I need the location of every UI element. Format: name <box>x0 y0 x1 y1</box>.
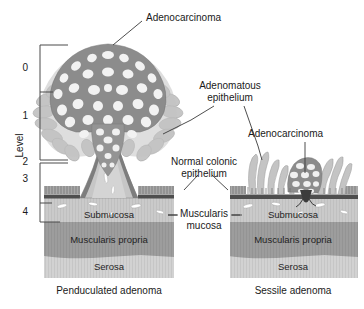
right-submucosa-label: Submucosa <box>248 209 338 220</box>
axis-tick-1: 1 <box>14 110 28 121</box>
axis-tick-2: 2 <box>14 156 28 167</box>
axis-tick-4: 4 <box>14 206 28 217</box>
left-submucosa-label: Submucosa <box>64 209 154 220</box>
right-serosa-label: Serosa <box>248 261 338 272</box>
colon-adenoma-diagram: Level 0 1 2 3 4 Adenocarcinoma Adenomato… <box>0 0 364 309</box>
left-muscularis-propria-label: Muscularis propria <box>54 234 164 245</box>
callout-adenomatous-epithelium: Adenomatous epithelium <box>188 80 272 103</box>
right-muscularis-propria-label: Muscularis propria <box>238 234 348 245</box>
callout-adenocarcinoma-top: Adenocarcinoma <box>146 12 221 24</box>
right-muscularis-mucosa-band <box>228 195 358 200</box>
axis-tick-0: 0 <box>14 62 28 73</box>
callout-normal-colonic-epithelium: Normal colonic epithelium <box>152 156 256 179</box>
callout-muscularis-mucosa: Muscularis mucosa <box>172 208 236 231</box>
caption-pedunculated-adenoma: Penduculated adenoma <box>42 285 176 296</box>
left-serosa-label: Serosa <box>64 261 154 272</box>
axis-tick-3: 3 <box>14 173 28 184</box>
caption-sessile-adenoma: Sessile adenoma <box>232 285 354 296</box>
callout-adenocarcinoma-right: Adenocarcinoma <box>248 128 323 140</box>
